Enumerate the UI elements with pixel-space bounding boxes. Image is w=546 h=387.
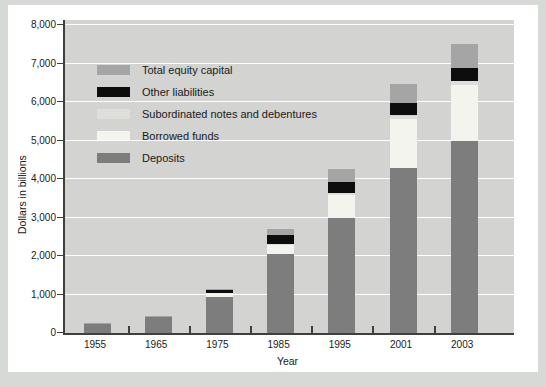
- legend-label: Total equity capital: [142, 64, 233, 76]
- bar-segment: [267, 229, 294, 235]
- legend-item: Other liabilities: [97, 87, 317, 97]
- y-axis-tick: [57, 178, 63, 179]
- bar-segment: [328, 193, 355, 195]
- bar-segment: [145, 316, 172, 317]
- stacked-bar-2003: [451, 43, 478, 333]
- x-axis-tick: [372, 326, 374, 333]
- gridline-3000: [65, 217, 514, 218]
- stacked-bar-1955: [84, 323, 111, 333]
- x-tick-label-2003: 2003: [432, 339, 492, 350]
- legend-label: Deposits: [142, 152, 185, 164]
- x-tick-label-1965: 1965: [126, 339, 186, 350]
- x-axis-tick: [128, 326, 130, 333]
- bar-segment: [451, 141, 478, 334]
- x-tick-label-1985: 1985: [249, 339, 309, 350]
- stacked-bar-1995: [328, 169, 355, 333]
- bar-segment: [328, 182, 355, 193]
- legend-item: Subordinated notes and debentures: [97, 109, 317, 119]
- x-axis-title: Year: [63, 355, 512, 367]
- bar-segment: [328, 169, 355, 183]
- gridline-6000: [65, 101, 514, 102]
- legend-swatch-icon: [97, 65, 130, 75]
- legend-item: Total equity capital: [97, 65, 317, 75]
- stacked-bar-1975: [206, 289, 233, 333]
- gridline-8000: [65, 24, 514, 25]
- y-tick-label: 3,000: [16, 212, 56, 224]
- legend-swatch-icon: [97, 153, 130, 163]
- y-tick-label: 8,000: [16, 19, 56, 31]
- bar-segment: [206, 293, 233, 297]
- bar-segment: [206, 297, 233, 333]
- x-axis-tick: [250, 326, 252, 333]
- x-axis-tick: [311, 326, 313, 333]
- y-axis-tick: [57, 294, 63, 295]
- y-axis-tick: [57, 255, 63, 256]
- bar-segment: [206, 290, 233, 293]
- bar-segment: [267, 235, 294, 244]
- stacked-bar-1985: [267, 229, 294, 333]
- legend-item: Deposits: [97, 153, 317, 163]
- x-tick-label-1975: 1975: [187, 339, 247, 350]
- bar-segment: [390, 119, 417, 168]
- y-tick-label: 6,000: [16, 96, 56, 108]
- legend-swatch-icon: [97, 87, 130, 97]
- bar-segment: [267, 254, 294, 333]
- gridline-7000: [65, 63, 514, 64]
- bar-segment: [267, 244, 294, 245]
- bar-segment: [390, 103, 417, 116]
- y-axis-tick: [57, 332, 63, 333]
- stacked-bar-2001: [390, 84, 417, 333]
- x-axis-tick: [434, 326, 436, 333]
- y-axis-tick: [57, 24, 63, 25]
- y-axis-tick: [57, 217, 63, 218]
- plot-area: Total equity capitalOther liabilitiesSub…: [63, 20, 514, 335]
- page-background: Dollars in billions Total equity capital…: [0, 0, 546, 387]
- bar-segment: [451, 81, 478, 85]
- x-tick-label-2001: 2001: [371, 339, 431, 350]
- bar-segment: [267, 244, 294, 254]
- legend-label: Subordinated notes and debentures: [142, 108, 317, 120]
- bar-segment: [390, 116, 417, 119]
- bar-segment: [84, 323, 111, 333]
- y-tick-label: 4,000: [16, 173, 56, 185]
- bar-segment: [145, 317, 172, 333]
- x-tick-label-1955: 1955: [65, 339, 125, 350]
- y-tick-label: 7,000: [16, 58, 56, 70]
- y-tick-label: 0: [16, 327, 56, 339]
- bar-segment: [390, 84, 417, 103]
- bar-segment: [328, 195, 355, 218]
- x-tick-label-1995: 1995: [310, 339, 370, 350]
- y-axis-tick: [57, 63, 63, 64]
- bar-segment: [451, 68, 478, 81]
- y-axis-tick: [57, 101, 63, 102]
- stacked-bar-1965: [145, 316, 172, 333]
- y-axis-tick: [57, 140, 63, 141]
- legend-label: Other liabilities: [142, 86, 214, 98]
- gridline-4000: [65, 178, 514, 179]
- chart-card: Dollars in billions Total equity capital…: [8, 5, 538, 372]
- x-axis-tick: [189, 326, 191, 333]
- bar-segment: [328, 218, 355, 333]
- y-tick-label: 1,000: [16, 289, 56, 301]
- bar-segment: [206, 289, 233, 290]
- legend: Total equity capitalOther liabilitiesSub…: [97, 65, 317, 163]
- bar-segment: [451, 44, 478, 69]
- legend-swatch-icon: [97, 109, 130, 119]
- y-tick-label: 5,000: [16, 135, 56, 147]
- bar-segment: [451, 85, 478, 141]
- y-tick-label: 2,000: [16, 250, 56, 262]
- gridline-5000: [65, 140, 514, 141]
- bar-segment: [390, 168, 417, 333]
